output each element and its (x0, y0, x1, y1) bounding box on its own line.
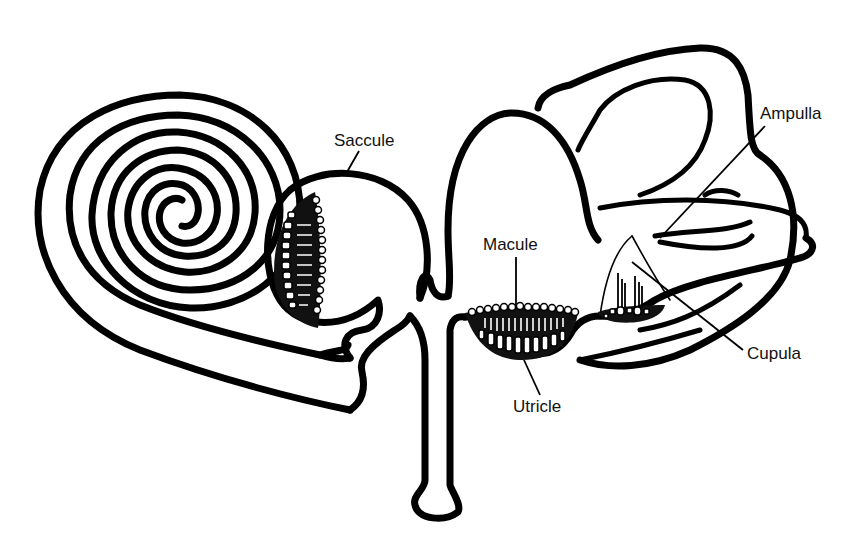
label-text-cupula: Cupula (747, 344, 801, 363)
cupula (618, 273, 642, 307)
label-utricle: Utricle (513, 360, 561, 416)
label-saccule: Saccule (334, 131, 394, 172)
endolymphatic-duct (410, 276, 465, 518)
label-text-macule: Macule (483, 235, 538, 254)
inner-ear-diagram: Saccule Ampulla Macule Cupula Utricle (0, 0, 860, 552)
saccule (268, 173, 428, 410)
label-text-ampulla: Ampulla (760, 104, 822, 123)
label-macule: Macule (483, 235, 538, 308)
semicircular-canals (538, 48, 813, 366)
label-text-utricle: Utricle (513, 397, 561, 416)
label-text-saccule: Saccule (334, 131, 394, 150)
ampulla (598, 236, 670, 323)
